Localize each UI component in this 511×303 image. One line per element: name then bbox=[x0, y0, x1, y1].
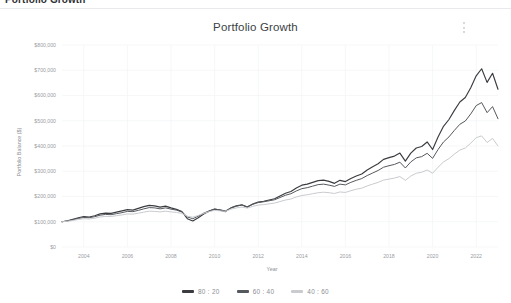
x-axis-tick-label: 2008 bbox=[165, 253, 177, 259]
page-header-title: Portfolio Growth bbox=[5, 0, 85, 5]
legend-swatch-icon bbox=[291, 290, 303, 293]
legend-item-label: 40 : 60 bbox=[307, 288, 329, 295]
x-axis-tick-label: 2016 bbox=[340, 253, 352, 259]
page-header-strip: Portfolio Growth bbox=[0, 0, 511, 9]
x-axis-tick-label: 2014 bbox=[296, 253, 308, 259]
x-axis-title: Year bbox=[267, 266, 278, 272]
y-axis-tick-labels: $0$100,000$200,000$300,000$400,000$500,0… bbox=[34, 42, 56, 250]
y-axis-tick-label: $600,000 bbox=[34, 92, 56, 98]
legend-item-label: 60 : 40 bbox=[253, 288, 275, 295]
x-axis-tick-label: 2006 bbox=[122, 253, 134, 259]
y-axis-tick-label: $700,000 bbox=[34, 67, 56, 73]
y-axis-tick-label: $400,000 bbox=[34, 143, 56, 149]
x-axis-tick-label: 2010 bbox=[209, 253, 221, 259]
x-axis-tick-label: 2018 bbox=[383, 253, 395, 259]
y-axis-title: Portfolio Balance ($) bbox=[16, 127, 22, 176]
gridlines bbox=[62, 45, 498, 247]
y-axis-tick-label: $500,000 bbox=[34, 118, 56, 124]
y-axis-tick-label: $200,000 bbox=[34, 193, 56, 199]
legend-item-label: 80 : 20 bbox=[198, 288, 220, 295]
portfolio-growth-chart-card: Portfolio Growth $0$100,000$200,000$300,… bbox=[0, 9, 511, 303]
y-axis-tick-label: $300,000 bbox=[34, 168, 56, 174]
x-axis-tick-label: 2004 bbox=[78, 253, 90, 259]
chart-app-window: Portfolio Growth Portfolio Growth $0$100… bbox=[0, 0, 511, 303]
y-axis-tick-label: $800,000 bbox=[34, 42, 56, 48]
x-axis-tick-labels: 2004200620082010201220142016201820202022 bbox=[78, 253, 482, 259]
portfolio-growth-line-chart: $0$100,000$200,000$300,000$400,000$500,0… bbox=[0, 9, 511, 303]
legend-swatch-icon bbox=[237, 290, 249, 293]
x-axis-tick-label: 2012 bbox=[252, 253, 264, 259]
legend-swatch-icon bbox=[182, 290, 194, 293]
y-axis-tick-label: $0 bbox=[50, 244, 56, 250]
plot-area: $0$100,000$200,000$300,000$400,000$500,0… bbox=[0, 9, 511, 303]
x-axis-tick-label: 2022 bbox=[470, 253, 482, 259]
legend-item[interactable]: 40 : 60 bbox=[291, 288, 329, 295]
chart-legend: 80 : 2060 : 4040 : 60 bbox=[0, 288, 511, 295]
legend-item[interactable]: 80 : 20 bbox=[182, 288, 220, 295]
x-axis-tick-label: 2020 bbox=[427, 253, 439, 259]
legend-item[interactable]: 60 : 40 bbox=[237, 288, 275, 295]
y-axis-tick-label: $100,000 bbox=[34, 219, 56, 225]
